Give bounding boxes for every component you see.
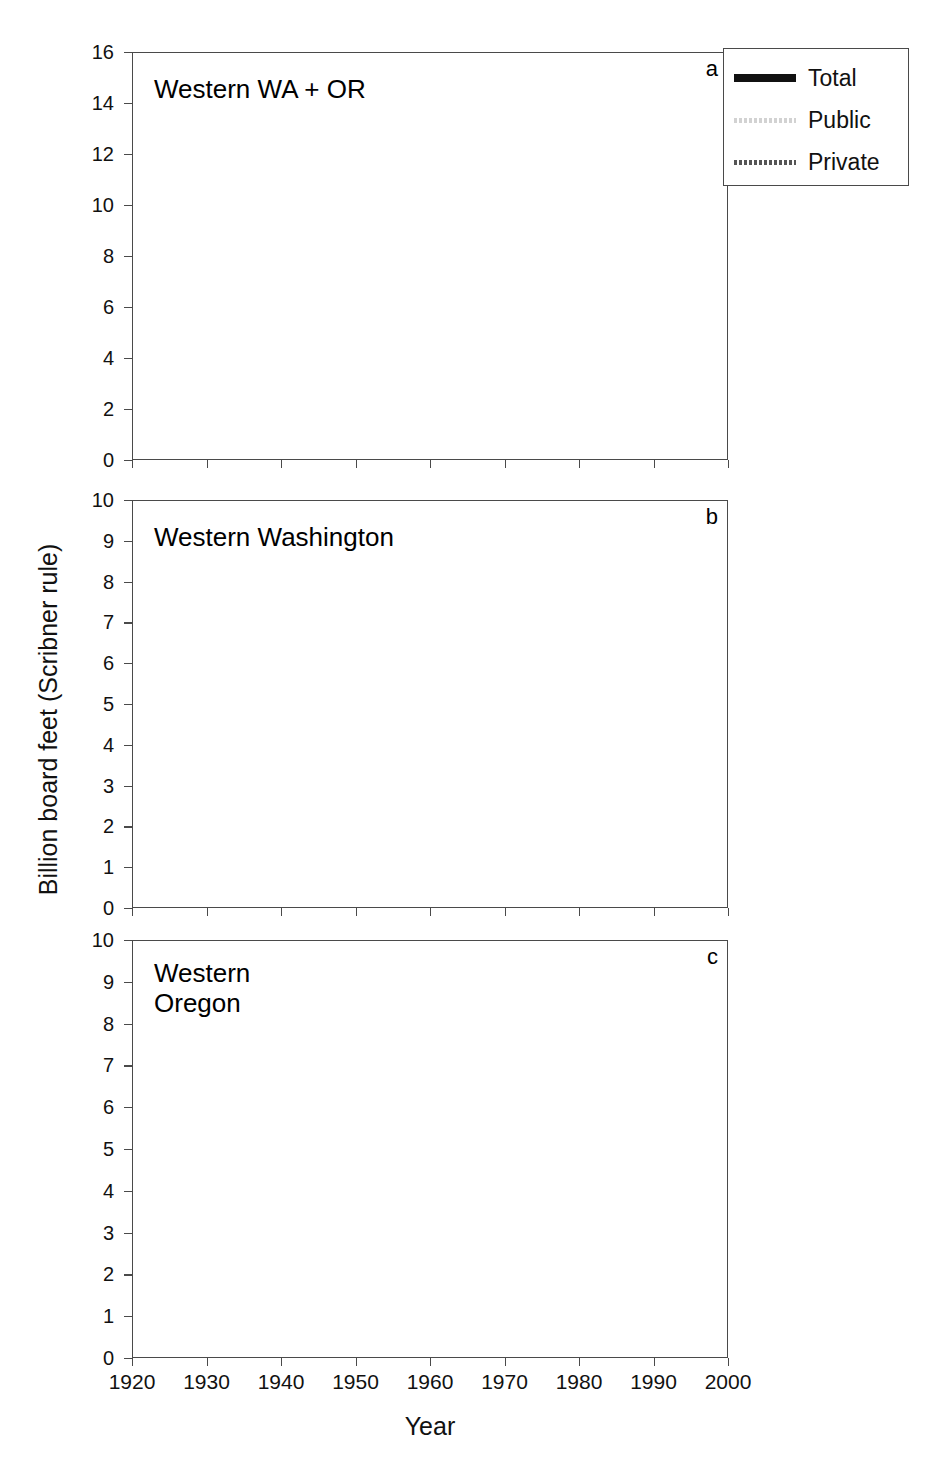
y-tick-mark — [124, 409, 132, 410]
y-tick-label: 6 — [74, 1096, 114, 1119]
legend-swatch-private — [734, 160, 796, 165]
y-tick-mark — [124, 541, 132, 542]
y-tick-label: 7 — [74, 1054, 114, 1077]
panel-c-letter: c — [707, 944, 718, 970]
legend-label-total: Total — [808, 65, 857, 92]
y-tick-mark — [124, 704, 132, 705]
y-tick-label: 2 — [74, 815, 114, 838]
x-tick-mark — [579, 908, 580, 916]
y-tick-mark — [124, 1065, 132, 1066]
y-tick-label: 8 — [74, 1012, 114, 1035]
x-tick-mark — [505, 908, 506, 916]
x-tick-label: 1970 — [470, 1370, 540, 1394]
y-tick-mark — [124, 582, 132, 583]
y-tick-label: 9 — [74, 529, 114, 552]
y-tick-mark — [124, 1107, 132, 1108]
figure-timber-harvest: Billion board feet (Scribner rule) Year … — [0, 0, 943, 1474]
y-tick-mark — [124, 908, 132, 909]
x-tick-label: 1960 — [395, 1370, 465, 1394]
x-tick-mark — [654, 908, 655, 916]
y-tick-label: 1 — [74, 1305, 114, 1328]
panel-b-title: Western Washington — [154, 522, 394, 552]
y-tick-mark — [124, 663, 132, 664]
y-tick-mark — [124, 205, 132, 206]
x-tick-label: 2000 — [693, 1370, 763, 1394]
panel-c: Western Oregon c — [132, 940, 728, 1358]
y-tick-label: 4 — [74, 1179, 114, 1202]
panel-b-letter: b — [706, 504, 718, 530]
y-tick-mark — [124, 1316, 132, 1317]
y-tick-mark — [124, 52, 132, 53]
legend-swatch-public — [734, 118, 796, 123]
x-tick-mark — [356, 460, 357, 468]
panel-a-frame — [132, 52, 728, 460]
y-tick-label: 2 — [74, 1263, 114, 1286]
y-tick-mark — [124, 1358, 132, 1359]
x-tick-mark — [579, 460, 580, 468]
y-tick-mark — [124, 940, 132, 941]
y-tick-label: 0 — [74, 1347, 114, 1370]
x-tick-mark — [207, 460, 208, 468]
y-tick-label: 10 — [74, 194, 114, 217]
x-tick-label: 1920 — [97, 1370, 167, 1394]
y-tick-label: 0 — [74, 449, 114, 472]
y-tick-label: 3 — [74, 774, 114, 797]
x-tick-mark — [430, 1358, 431, 1366]
x-tick-mark — [132, 460, 133, 468]
y-tick-label: 5 — [74, 693, 114, 716]
y-tick-label: 8 — [74, 570, 114, 593]
x-tick-mark — [281, 908, 282, 916]
y-tick-label: 9 — [74, 970, 114, 993]
panel-a: Western WA + OR a — [132, 52, 728, 460]
y-tick-label: 6 — [74, 652, 114, 675]
y-tick-label: 5 — [74, 1138, 114, 1161]
x-tick-mark — [728, 1358, 729, 1366]
panel-c-title: Western Oregon — [154, 958, 250, 1018]
x-tick-mark — [505, 1358, 506, 1366]
y-tick-mark — [124, 1233, 132, 1234]
x-tick-mark — [132, 1358, 133, 1366]
x-tick-mark — [728, 908, 729, 916]
y-tick-label: 3 — [74, 1221, 114, 1244]
y-tick-mark — [124, 1024, 132, 1025]
x-tick-label: 1950 — [321, 1370, 391, 1394]
y-tick-mark — [124, 867, 132, 868]
x-tick-mark — [132, 908, 133, 916]
x-tick-mark — [281, 460, 282, 468]
x-tick-label: 1930 — [172, 1370, 242, 1394]
panel-a-letter: a — [706, 56, 718, 82]
x-tick-mark — [430, 460, 431, 468]
y-tick-mark — [124, 460, 132, 461]
x-tick-mark — [281, 1358, 282, 1366]
legend-item-total[interactable]: Total — [734, 61, 857, 95]
y-tick-label: 2 — [74, 398, 114, 421]
y-tick-mark — [124, 745, 132, 746]
y-tick-mark — [124, 622, 132, 623]
y-tick-mark — [124, 500, 132, 501]
y-tick-label: 4 — [74, 733, 114, 756]
y-tick-mark — [124, 256, 132, 257]
x-tick-label: 1940 — [246, 1370, 316, 1394]
x-tick-label: 1980 — [544, 1370, 614, 1394]
x-tick-mark — [728, 460, 729, 468]
y-tick-label: 0 — [74, 897, 114, 920]
panel-b: Western Washington b — [132, 500, 728, 908]
y-tick-mark — [124, 826, 132, 827]
x-tick-mark — [207, 1358, 208, 1366]
legend-swatch-total — [734, 74, 796, 82]
x-axis-label: Year — [132, 1412, 728, 1441]
x-tick-mark — [356, 908, 357, 916]
y-tick-label: 6 — [74, 296, 114, 319]
y-tick-label: 10 — [74, 929, 114, 952]
legend-item-public[interactable]: Public — [734, 103, 871, 137]
panel-a-title: Western WA + OR — [154, 74, 366, 104]
x-tick-mark — [505, 460, 506, 468]
y-tick-label: 14 — [74, 92, 114, 115]
y-tick-label: 4 — [74, 347, 114, 370]
panel-b-frame — [132, 500, 728, 908]
y-tick-mark — [124, 307, 132, 308]
x-tick-label: 1990 — [619, 1370, 689, 1394]
y-tick-mark — [124, 1191, 132, 1192]
legend-item-private[interactable]: Private — [734, 145, 880, 179]
y-tick-label: 8 — [74, 245, 114, 268]
